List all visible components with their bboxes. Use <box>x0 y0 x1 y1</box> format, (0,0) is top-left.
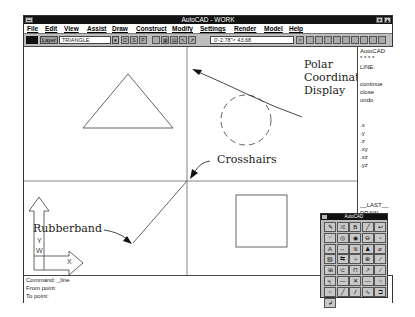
layer-dropdown-button[interactable]: ▾ <box>112 36 119 44</box>
screen-menu-xy[interactable]: .xy <box>360 146 368 152</box>
toolbox-tool-25[interactable]: ╕ <box>324 276 336 286</box>
custom-button-2[interactable] <box>315 36 323 44</box>
toolbox-tool-16[interactable]: ⇆ <box>337 254 349 264</box>
screen-menu-autocad[interactable]: AutoCAD <box>360 48 385 54</box>
toolbox-tool-20[interactable]: ⊞ <box>324 265 336 275</box>
polar-annotation-line2: Coordinate <box>304 72 358 84</box>
layer-name-field[interactable]: TRIANGLE <box>59 36 111 44</box>
custom-button-8[interactable] <box>369 36 377 44</box>
toolbox-tool-30[interactable]: ○ <box>324 287 336 297</box>
toolbox-tool-13[interactable]: ♟ <box>362 244 374 254</box>
screen-menu-last[interactable]: __LAST__ <box>360 202 388 208</box>
toolbox-tool-33[interactable]: ∿ <box>362 287 374 297</box>
custom-button-4[interactable] <box>333 36 341 44</box>
new-file-button[interactable]: ▦ <box>161 36 169 44</box>
minimize-button[interactable]: ▼ <box>376 17 383 23</box>
menu-help[interactable]: Help <box>289 24 303 33</box>
color-swatch[interactable] <box>26 36 38 44</box>
menu-construct[interactable]: Construct <box>136 24 167 33</box>
toolbox-tool-23[interactable]: ↗ <box>362 265 374 275</box>
toolbox-tool-34[interactable]: ⊐ <box>374 287 386 297</box>
toolbox-tool-22[interactable]: ⊓ <box>349 265 361 275</box>
ortho-button[interactable]: O <box>121 36 129 44</box>
menu-draw[interactable]: Draw <box>112 24 128 33</box>
screen-menu-x[interactable]: .x <box>360 122 365 128</box>
toolbox-tool-9[interactable]: ▫ <box>374 233 386 243</box>
toolbox-tool-27[interactable]: ✕ <box>349 276 361 286</box>
coordinate-display: 0'-2.78"< 43.68 <box>210 36 294 44</box>
screen-menu-xz[interactable]: .xz <box>360 154 368 160</box>
toolbox-tool-10[interactable]: A <box>324 244 336 254</box>
screen-menu-yz[interactable]: .yz <box>360 162 368 168</box>
custom-button-1[interactable] <box>306 36 314 44</box>
toolbox-tool-17[interactable]: ⌗ <box>349 254 361 264</box>
toolbox-tool-18[interactable]: ⊕ <box>362 254 374 264</box>
toolbox-tool-24[interactable]: ∕ <box>374 265 386 275</box>
drawing-area[interactable]: Polar Coordinate Display Crosshairs Rubb… <box>24 47 358 275</box>
custom-button-6[interactable] <box>351 36 359 44</box>
toolbox-tool-19[interactable]: ∕ <box>374 254 386 264</box>
save-button[interactable]: ▤ <box>170 36 178 44</box>
toolbox-tool-11[interactable]: ↔ <box>337 244 349 254</box>
toolbox-tool-35[interactable]: ↲ <box>324 298 336 308</box>
toolbox-tool-0[interactable]: ✎ <box>324 222 336 232</box>
menu-modify[interactable]: Modify <box>172 24 193 33</box>
screen-menu-close[interactable]: close <box>360 89 374 95</box>
menu-model[interactable]: Model <box>264 24 283 33</box>
menu-file[interactable]: File <box>27 24 38 33</box>
toolbox-tool-2[interactable]: B <box>349 222 361 232</box>
toolbox-tool-31[interactable]: ╱ <box>337 287 349 297</box>
custom-button-3[interactable] <box>324 36 332 44</box>
menu-render[interactable]: Render <box>234 24 256 33</box>
toolbox-tool-3[interactable]: ╱ <box>362 222 374 232</box>
toolbox-tool-7[interactable]: ◉ <box>349 233 361 243</box>
screen-menu-undo[interactable]: undo <box>360 97 373 103</box>
toolbox-tool-6[interactable]: ◎ <box>337 233 349 243</box>
polar-annotation-line3: Display <box>304 85 345 97</box>
triangle-shape <box>83 74 173 128</box>
toolbox-tool-4[interactable]: ↩ <box>374 222 386 232</box>
menu-view[interactable]: View <box>64 24 79 33</box>
maximize-button[interactable]: ▲ <box>384 17 391 23</box>
toolbox-system-menu-icon[interactable] <box>322 215 327 219</box>
menu-settings[interactable]: Settings <box>200 24 226 33</box>
toolbar-button-4[interactable] <box>152 36 160 44</box>
toolbox-tool-14[interactable]: ⌀ <box>374 244 386 254</box>
custom-button-7[interactable] <box>360 36 368 44</box>
toolbox-tool-28[interactable]: — <box>362 276 374 286</box>
menu-bar: File Edit View Assist Draw Construct Mod… <box>24 24 392 34</box>
menu-edit[interactable]: Edit <box>45 24 57 33</box>
toolbox-tool-29[interactable]: ○ <box>374 276 386 286</box>
custom-button-5[interactable] <box>342 36 350 44</box>
toolbar-button-7[interactable]: ↖ <box>179 36 187 44</box>
toolbox-tool-21[interactable]: ⊂ <box>337 265 349 275</box>
toolbox-tool-8[interactable]: ⊖ <box>362 233 374 243</box>
window-title: AutoCAD - WORK <box>24 16 392 24</box>
menu-assist[interactable]: Assist <box>87 24 107 33</box>
toolbox-tool-1[interactable]: ⤨ <box>337 222 349 232</box>
ucs-x-label: X <box>67 258 72 265</box>
toolbox-tool-5[interactable]: ◜ <box>324 233 336 243</box>
custom-button-9[interactable] <box>378 36 386 44</box>
screen-menu-line[interactable]: LINE: <box>360 64 375 70</box>
toolbar: Layer TRIANGLE ▾ O S P ▦ ▤ ↖ ↗ 0'-2.78"<… <box>24 34 392 47</box>
floating-toolbox[interactable]: AutoCAD ✎⤨B╱↩◜◎◉⊖▫A↔≋♟⌀▧⇆⌗⊕∕⊞⊂⊓↗∕╕—✕—○○╱… <box>320 213 388 298</box>
rubberband-line <box>133 181 187 243</box>
screen-menu-z[interactable]: .z <box>360 138 365 144</box>
toolbox-title-bar[interactable]: AutoCAD <box>321 214 387 220</box>
toolbox-tool-12[interactable]: ≋ <box>349 244 361 254</box>
toolbar-button-8[interactable]: ↗ <box>188 36 196 44</box>
title-bar[interactable]: AutoCAD - WORK ▼ ▲ <box>24 16 392 24</box>
ucs-w-label: W <box>36 247 43 254</box>
screen-menu-continue[interactable]: continue <box>360 81 383 87</box>
snap-button[interactable]: S <box>130 36 138 44</box>
toolbox-tool-32[interactable]: ⫽ <box>349 287 361 297</box>
toolbox-toggle-icon[interactable]: ✧ <box>296 36 304 44</box>
screen-menu-y[interactable]: .y <box>360 130 365 136</box>
square-shape <box>236 195 287 247</box>
paper-space-button[interactable]: P <box>139 36 147 44</box>
toolbox-tool-15[interactable]: ▧ <box>324 254 336 264</box>
toolbox-tool-26[interactable]: — <box>337 276 349 286</box>
screen-menu-stars[interactable]: * * * * <box>360 55 374 61</box>
layer-button[interactable]: Layer <box>40 36 58 44</box>
